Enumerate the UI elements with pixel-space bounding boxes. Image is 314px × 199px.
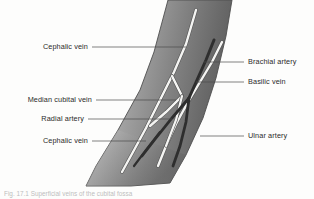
label-radial-artery: Radial artery (41, 115, 84, 122)
anatomy-figure: Cephalic vein Median cubital vein Radial… (0, 0, 314, 199)
label-ulnar-artery: Ulnar artery (248, 132, 287, 139)
label-basilic-vein: Basilic vein (248, 78, 286, 85)
figure-caption: Fig. 17.1 Superficial veins of the cubit… (4, 190, 132, 197)
label-median-cubital-vein: Median cubital vein (28, 96, 92, 103)
label-cephalic-vein-upper: Cephalic vein (43, 43, 88, 50)
arm-body (86, 0, 232, 186)
label-brachial-artery: Brachial artery (248, 58, 297, 65)
label-cephalic-vein-lower: Cephalic vein (43, 137, 88, 144)
